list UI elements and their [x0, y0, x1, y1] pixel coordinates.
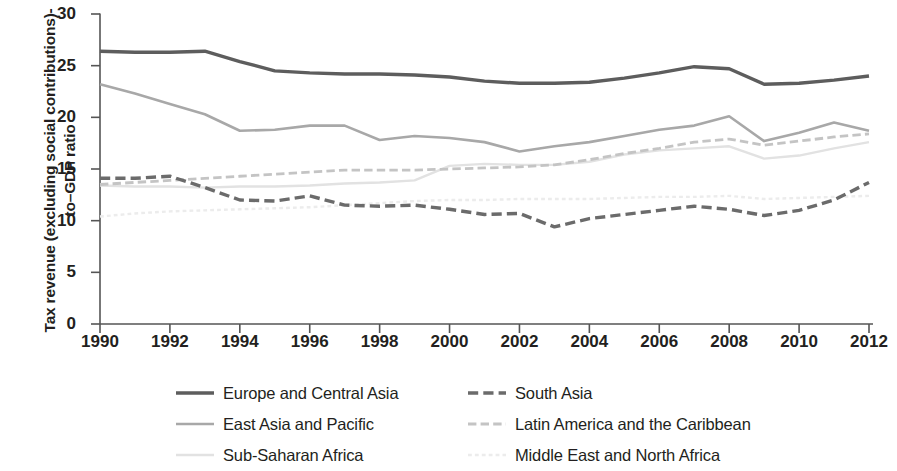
- legend-label: Europe and Central Asia: [223, 384, 398, 403]
- x-axis-tick-label: 2002: [489, 332, 549, 352]
- x-axis-tick-label: 2008: [699, 332, 759, 352]
- legend-swatch-line-icon: [468, 448, 506, 462]
- plot-area: [0, 0, 897, 345]
- legend-swatch-line-icon: [468, 417, 506, 431]
- legend-label: Sub-Saharan Africa: [223, 446, 363, 465]
- legend-swatch-line-icon: [176, 417, 214, 431]
- legend-item[interactable]: Latin America and the Caribbean: [468, 409, 751, 439]
- series-line-east-asia-and-pacific: [100, 84, 869, 151]
- legend-item[interactable]: East Asia and Pacific: [176, 409, 374, 439]
- x-axis-tick-label: 2004: [559, 332, 619, 352]
- legend-label: Latin America and the Caribbean: [515, 415, 751, 434]
- x-axis-tick-label: 1994: [210, 332, 270, 352]
- chart-legend: Europe and Central AsiaEast Asia and Pac…: [176, 378, 876, 470]
- x-axis-tick-label: 2012: [839, 332, 897, 352]
- x-axis-tick-label: 2000: [420, 332, 480, 352]
- legend-item[interactable]: South Asia: [468, 378, 592, 408]
- legend-label: East Asia and Pacific: [223, 415, 374, 434]
- x-axis-tick-label: 2010: [769, 332, 829, 352]
- legend-label: Middle East and North Africa: [515, 446, 720, 465]
- x-axis-tick-label: 1996: [280, 332, 340, 352]
- legend-swatch-line-icon: [468, 386, 506, 400]
- series-line-europe-and-central-asia: [100, 51, 869, 84]
- legend-swatch-line-icon: [176, 386, 214, 400]
- legend-label: South Asia: [515, 384, 592, 403]
- legend-item[interactable]: Middle East and North Africa: [468, 440, 720, 470]
- chart-figure: Tax revenue (excluding social contributi…: [0, 0, 897, 471]
- x-axis-tick-label: 1990: [70, 332, 130, 352]
- x-axis-tick-label: 1998: [350, 332, 410, 352]
- legend-item[interactable]: Europe and Central Asia: [176, 378, 398, 408]
- series-line-south-asia: [100, 176, 869, 227]
- legend-swatch-line-icon: [176, 448, 214, 462]
- x-axis-tick-label: 2006: [629, 332, 689, 352]
- x-axis-tick-label: 1992: [140, 332, 200, 352]
- legend-item[interactable]: Sub-Saharan Africa: [176, 440, 363, 470]
- series-line-sub-saharan-africa: [100, 142, 869, 187]
